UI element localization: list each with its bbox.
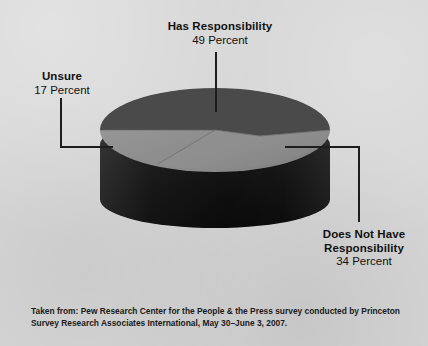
leader-line-has-responsibility [215,52,217,112]
leader-line-unsure-vertical [60,98,62,148]
pie-chart-figure: Has Responsibility 49 Percent Unsure 17 … [0,0,428,346]
label-has-responsibility: Has Responsibility 49 Percent [140,20,300,47]
label-unsure: Unsure 17 Percent [10,70,114,97]
label-unsure-title: Unsure [10,70,114,84]
label-does-not-have-title-line2: Responsibility [300,242,428,256]
leader-line-doesnot-horizontal [285,146,360,148]
label-has-responsibility-percent: 49 Percent [140,34,300,48]
leader-line-unsure-horizontal [60,146,113,148]
label-does-not-have-responsibility: Does Not Have Responsibility 34 Percent [300,228,428,269]
label-does-not-have-percent: 34 Percent [300,255,428,269]
leader-line-doesnot-vertical [358,146,360,222]
label-does-not-have-title-line1: Does Not Have [300,228,428,242]
label-has-responsibility-title: Has Responsibility [140,20,300,34]
label-unsure-percent: 17 Percent [10,84,114,98]
source-caption: Taken from: Pew Research Center for the … [31,306,403,330]
chart-area: Has Responsibility 49 Percent Unsure 17 … [0,0,428,346]
